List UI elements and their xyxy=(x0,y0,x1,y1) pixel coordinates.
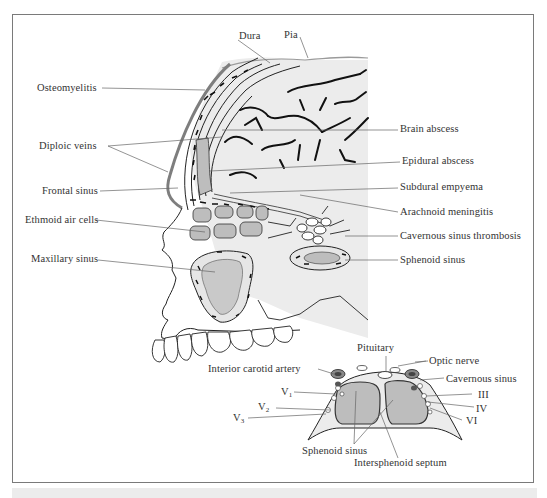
inset-bone-outline xyxy=(308,372,462,440)
label-pituitary: Pituitary xyxy=(357,343,394,354)
label-iv: IV xyxy=(476,404,487,415)
label-interior-carotid-artery: Interior carotid artery xyxy=(208,364,301,375)
label-sphenoid-sinus: Sphenoid sinus xyxy=(400,255,465,266)
label-vi: VI xyxy=(466,416,477,427)
label-v1: V1 xyxy=(281,387,292,399)
label-brain-abscess: Brain abscess xyxy=(400,124,459,135)
label-cavernous-sinus: Cavernous sinus xyxy=(446,374,517,385)
anatomy-illustration xyxy=(0,0,547,498)
label-epidural-abscess: Epidural abscess xyxy=(402,156,474,167)
label-pia: Pia xyxy=(284,30,298,41)
label-v1-text: V xyxy=(281,386,289,397)
label-iii: III xyxy=(478,390,489,401)
label-optic-nerve: Optic nerve xyxy=(429,356,479,367)
optic-nerve-left xyxy=(357,366,367,371)
label-cavernous-sinus-thrombosis: Cavernous sinus thrombosis xyxy=(400,231,521,242)
label-subdural-empyema: Subdural empyema xyxy=(400,182,483,193)
label-v2: V2 xyxy=(258,402,269,414)
label-maxillary-sinus: Maxillary sinus xyxy=(31,254,98,265)
inset-sphenoid-left xyxy=(335,382,380,424)
label-arachnoid-meningitis: Arachnoid meningitis xyxy=(400,207,493,218)
label-intersphenoid-septum: Intersphenoid septum xyxy=(354,458,447,469)
label-diploic-veins: Diploic veins xyxy=(39,141,97,152)
label-v3-sub: 3 xyxy=(241,417,245,425)
optic-nerve-right xyxy=(390,368,400,373)
label-v2-sub: 2 xyxy=(266,406,270,414)
label-v3-text: V xyxy=(233,412,241,423)
label-osteomyelitis: Osteomyelitis xyxy=(37,83,97,94)
teeth xyxy=(152,326,293,362)
label-v1-sub: 1 xyxy=(289,391,293,399)
label-v2-text: V xyxy=(258,401,266,412)
label-frontal-sinus: Frontal sinus xyxy=(42,186,98,197)
label-v3: V3 xyxy=(233,413,244,425)
label-dura: Dura xyxy=(239,31,260,42)
label-ethmoid-air-cells: Ethmoid air cells xyxy=(25,215,98,226)
inset-coronal-section xyxy=(308,366,462,441)
pituitary-shape xyxy=(378,372,392,379)
label-inset-sphenoid-sinus: Sphenoid sinus xyxy=(302,446,367,457)
